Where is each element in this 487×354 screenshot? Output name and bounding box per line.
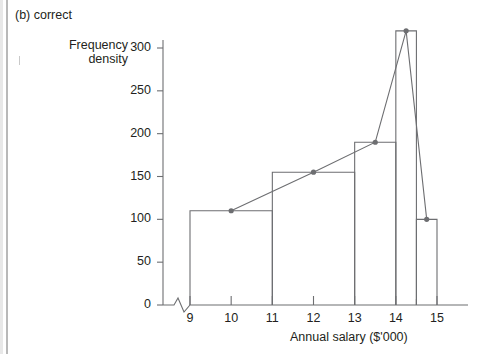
polygon-data-point bbox=[424, 217, 429, 222]
frequency-polygon-group bbox=[231, 31, 427, 219]
x-tick-label: 9 bbox=[175, 311, 205, 325]
polygon-data-point bbox=[373, 140, 378, 145]
x-tick-label: 11 bbox=[257, 311, 287, 325]
histogram-bar bbox=[416, 219, 437, 305]
x-tick-label: 14 bbox=[381, 311, 411, 325]
axes-group bbox=[157, 40, 468, 312]
x-axis-title: Annual salary ($'000) bbox=[290, 330, 408, 344]
frequency-polygon-line bbox=[231, 31, 427, 219]
y-tick-label: 0 bbox=[107, 297, 151, 311]
polygon-data-point bbox=[229, 208, 234, 213]
y-tick-label: 250 bbox=[107, 83, 151, 97]
x-tick-label: 12 bbox=[299, 311, 329, 325]
histogram-bar bbox=[396, 31, 417, 305]
histogram-bar bbox=[272, 172, 354, 305]
y-tick-label: 100 bbox=[107, 211, 151, 225]
y-tick-label: 200 bbox=[107, 126, 151, 140]
bars-group bbox=[190, 31, 437, 305]
polygon-data-point bbox=[404, 28, 409, 33]
y-tick-label: 300 bbox=[107, 40, 151, 54]
x-tick-label: 10 bbox=[216, 311, 246, 325]
figure-panel: (b) correct Frequency density 0501001502… bbox=[0, 0, 487, 354]
polygon-data-point bbox=[311, 170, 316, 175]
y-tick-label: 150 bbox=[107, 169, 151, 183]
histogram-bar bbox=[190, 211, 272, 305]
x-tick-label: 15 bbox=[422, 311, 452, 325]
x-tick-label: 13 bbox=[340, 311, 370, 325]
y-tick-label: 50 bbox=[107, 254, 151, 268]
histogram-bar bbox=[355, 142, 396, 305]
x-axis-line-with-break bbox=[163, 298, 468, 312]
histogram-plot bbox=[0, 0, 487, 354]
